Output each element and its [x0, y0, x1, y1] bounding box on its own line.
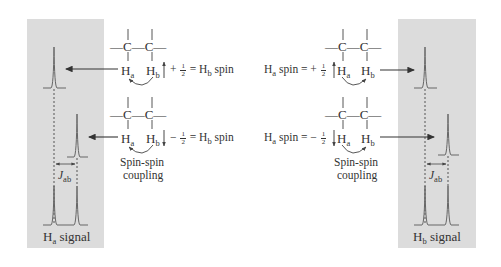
hb-doublet — [414, 186, 459, 225]
ha-signal-label: Ha signal — [43, 230, 90, 246]
fraction-half: 12 — [180, 63, 186, 78]
right-coupling-label-line2: coupling — [337, 170, 377, 182]
hb-single-peak — [414, 47, 437, 88]
ha-shifted-peak — [67, 114, 88, 157]
fraction-half: 12 — [321, 131, 327, 146]
left-top-hb: Hb — [146, 64, 160, 80]
left-coupling-label-line2: coupling — [123, 170, 163, 182]
ha-single-peak — [43, 47, 66, 88]
right-bottom-hb: Hb — [361, 132, 375, 148]
left-bottom-ha: Ha — [121, 132, 134, 148]
left-top-equation: + 12 = Hb spin — [170, 63, 234, 78]
left-bottom-hb: Hb — [146, 132, 160, 148]
right-bottom-carbon-chain: —C—C— — [325, 108, 381, 121]
hb-jab-label: Jab — [429, 170, 442, 184]
left-coupling-label-line1: Spin-spin — [120, 157, 164, 169]
left-bottom-carbon-chain: —C—C— — [110, 108, 166, 121]
ha-jab-label: Jab — [58, 170, 71, 184]
left-bottom-equation: − 12 = Hb spin — [170, 131, 234, 146]
right-bottom-ha: Ha — [337, 132, 350, 148]
right-bottom-equation: Ha spin = − 12 — [264, 131, 327, 146]
left-top-ha: Ha — [121, 64, 134, 80]
hb-shifted-peak — [438, 114, 459, 155]
right-top-equation: Ha spin = + 12 — [264, 63, 327, 78]
diagram-graphics — [0, 0, 501, 267]
hb-signal-label: Hb signal — [413, 230, 461, 246]
ha-doublet — [43, 186, 88, 225]
left-top-carbon-chain: —C—C— — [110, 40, 166, 53]
right-top-hb: Hb — [361, 64, 375, 80]
right-top-carbon-chain: —C—C— — [325, 40, 381, 53]
fraction-half: 12 — [180, 131, 186, 146]
right-top-ha: Ha — [337, 64, 350, 80]
fraction-half: 12 — [321, 63, 327, 78]
right-coupling-label-line1: Spin-spin — [334, 157, 378, 169]
